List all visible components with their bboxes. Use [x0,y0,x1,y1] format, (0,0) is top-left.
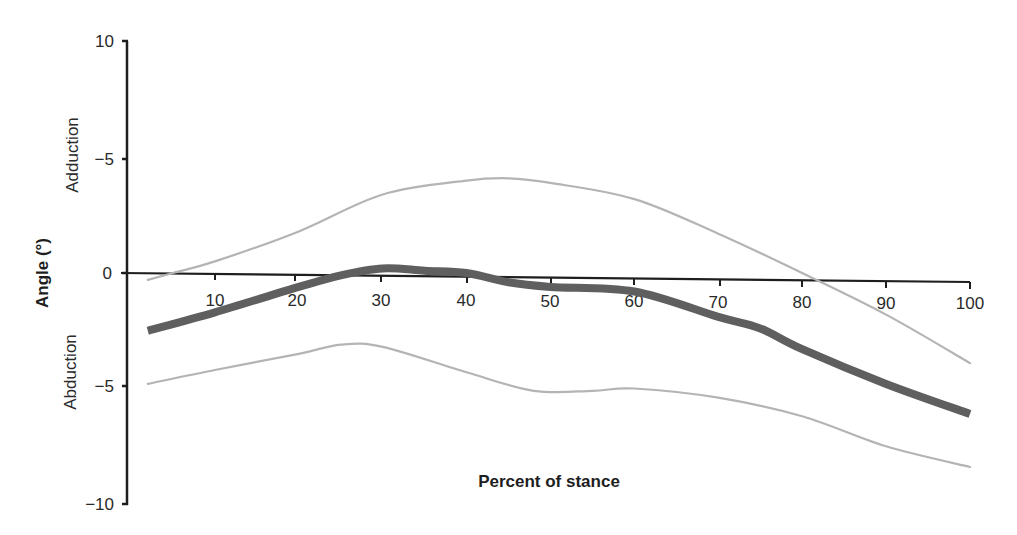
x-tick-label: 100 [956,294,984,313]
y-tick-label: −10 [85,495,114,514]
x-tick-label: 50 [541,292,560,311]
x-axis-title: Percent of stance [478,472,620,491]
x-tick-label: 30 [372,291,391,310]
y-tick-label: −5 [95,377,114,396]
y-tick-label: 0 [103,264,112,283]
x-axis: 10 20 30 40 50 60 70 80 90 100 [121,273,984,313]
y-axis-title: Angle (°) [33,238,52,308]
lower-bound-line [148,344,970,467]
x-tick-label: 40 [457,291,476,310]
x-tick-label: 20 [288,291,307,310]
y-tick-label: 10 [95,32,114,51]
x-tick-label: 80 [793,293,812,312]
y-tick-label: −5 [95,150,114,169]
chart: 10 −5 0 −5 −10 Adduction Abduction Angle… [0,0,1017,535]
adduction-label: Adduction [63,117,82,193]
upper-bound-line [148,178,970,363]
x-tick-label: 70 [709,293,728,312]
abduction-label: Abduction [61,334,80,410]
